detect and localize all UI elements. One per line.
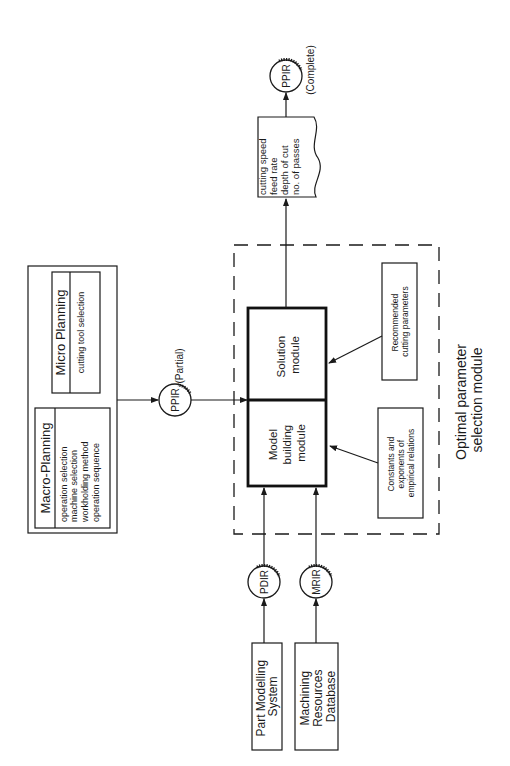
svg-text:operation selection: operation selection (59, 446, 69, 522)
svg-text:Optimal parameter select: Optimal parameter selection module (453, 340, 485, 460)
pdir-connector: PDIR (248, 565, 280, 598)
macro-planning-box: Macro-Planning operation selection machi… (0, 0, 110, 528)
svg-text:cutting speed: cutting speed (257, 138, 268, 195)
recommended-parameters-note: Recommended cutting parameters (382, 263, 417, 380)
svg-text:(Complete): (Complete) (305, 45, 316, 94)
svg-text:(Partial): (Partial) (174, 348, 185, 383)
mrir-connector: MRIR (300, 565, 332, 598)
ppir-partial-connector: PPIR (Partial) (159, 348, 191, 416)
recommended-arrow (329, 336, 382, 363)
constants-note: Constants and exponents of empirical rel… (378, 408, 423, 518)
svg-text:machine selection: machine selection (69, 450, 79, 522)
svg-text:Constants and exponents: Constants and exponents of empirical rel… (386, 429, 416, 498)
model-building-module: Model building module (267, 422, 307, 465)
output-parameters-document: cutting speed feed rate depth of cut no.… (257, 117, 320, 197)
svg-text:PPIR: PPIR (170, 388, 181, 411)
svg-text:MRIR: MRIR (311, 569, 322, 595)
part-modelling-system: Part Modelling System (252, 643, 282, 750)
optimal-module-title: Optimal parameter selection module (453, 340, 485, 460)
svg-text:cutting tool selection: cutting tool selection (76, 292, 86, 374)
svg-text:PDIR: PDIR (259, 570, 270, 594)
micro-planning-box: Micro Planning cutting tool selection (52, 272, 100, 393)
svg-text:Machining Resources: Machining Resources Database (298, 666, 338, 727)
svg-text:operation sequence: operation sequence (91, 443, 101, 522)
svg-text:no. of passes: no. of passes (290, 138, 301, 195)
svg-text:Macro-Planning: Macro-Planning (38, 422, 53, 513)
svg-text:depth of cut: depth of cut (279, 145, 290, 195)
svg-text:Recommended cutting para: Recommended cutting parameters (390, 286, 410, 356)
svg-text:Model building mod: Model building module (267, 422, 307, 465)
constants-arrow (330, 446, 378, 463)
svg-text:workholding method: workholding method (80, 441, 90, 523)
ppir-complete-connector: PPIR (Complete) (270, 45, 316, 94)
svg-text:PPIR: PPIR (281, 64, 292, 87)
process-planning-diagram: Solution module Model building module Re… (0, 0, 510, 766)
machining-resources-database: Machining Resources Database (295, 643, 338, 750)
svg-text:Micro Planning: Micro Planning (53, 290, 68, 376)
svg-text:feed rate: feed rate (268, 158, 279, 196)
